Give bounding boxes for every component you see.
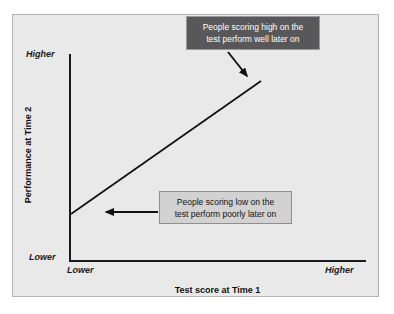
y-axis-tick-higher: Higher	[26, 49, 55, 59]
chart-panel	[12, 14, 379, 297]
y-axis-title: Performance at Time 2	[23, 90, 33, 220]
chart-figure: Higher Lower Lower Higher Test score at …	[0, 0, 394, 314]
callout-high-line1: People scoring high on the	[187, 21, 319, 33]
x-axis-tick-lower: Lower	[67, 265, 94, 275]
callout-low-line2: test perform poorly later on	[160, 208, 291, 220]
x-axis-line	[69, 260, 366, 262]
callout-high-line2: test perform well later on	[187, 33, 319, 45]
x-axis-title: Test score at Time 1	[69, 285, 366, 295]
y-axis-line	[69, 54, 71, 262]
callout-high-scorers: People scoring high on the test perform …	[186, 16, 320, 50]
callout-low-scorers: People scoring low on the test perform p…	[159, 191, 292, 224]
x-axis-tick-higher: Higher	[325, 265, 354, 275]
callout-low-line1: People scoring low on the	[160, 196, 291, 208]
y-axis-tick-lower: Lower	[29, 252, 56, 262]
